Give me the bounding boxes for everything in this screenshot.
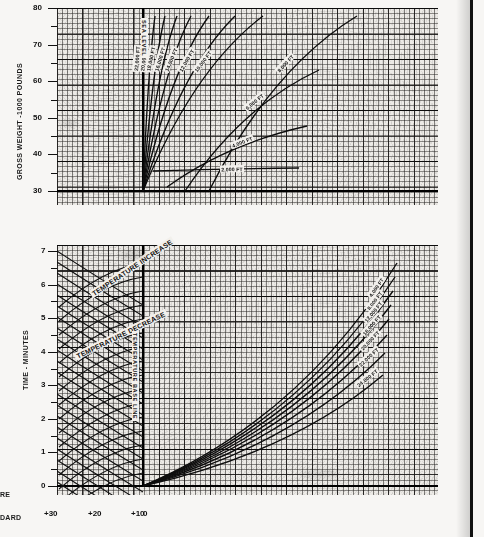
upper-y-tick-label: 40 (33, 149, 42, 158)
upper-y-tickmark (48, 8, 57, 9)
scan-blotch (300, 470, 340, 478)
upper-y-axis-label: GROSS WEIGHT -1000 POUNDS (16, 63, 23, 180)
upper-y-tick-label: 60 (33, 76, 42, 85)
lower-y-tickmark (48, 385, 57, 386)
upper-y-tickmark (48, 81, 57, 82)
lower-y-tick-label: 0 (41, 481, 45, 490)
lower-y-tick-label: 6 (41, 280, 45, 289)
altitude-curve-label: 2,000 FT (220, 165, 244, 172)
lower-y-minor-tickmark (51, 301, 57, 302)
sea-level-baseline-label: SEA LEVEL (141, 18, 148, 58)
lower-y-tickmark (48, 452, 57, 453)
lower-y-minor-tickmark (51, 268, 57, 269)
x-tick-label: 0 (143, 509, 147, 518)
margin-text-upper: RE (0, 491, 10, 498)
lower-y-minor-tickmark (51, 335, 57, 336)
scan-blotch (60, 120, 78, 127)
upper-y-tickmark (48, 154, 57, 155)
temperature-base-line-label: TEMPERATURE BASE LINE (132, 331, 139, 421)
lower-y-axis-label: TIME - MINUTES (22, 330, 29, 390)
upper-y-tick-label: 70 (33, 40, 42, 49)
upper-y-tickmark (48, 191, 57, 192)
lower-y-tick-label: 3 (41, 380, 45, 389)
upper-y-minor-tickmark (51, 26, 57, 27)
binding-shadow (456, 0, 470, 537)
lower-y-tick-label: 4 (41, 347, 45, 356)
upper-y-tick-label: 30 (33, 186, 42, 195)
upper-y-tick-label: 80 (33, 3, 42, 12)
lower-y-tick-label: 7 (41, 246, 45, 255)
nomograph-page: 2,000 FT4,000 FT6,000 FT8,000 FT10,000 F… (0, 0, 484, 537)
lower-y-minor-tickmark (51, 402, 57, 403)
upper-y-minor-tickmark (51, 173, 57, 174)
upper-y-minor-tickmark (51, 100, 57, 101)
book-binding-edge (470, 0, 473, 537)
lower-y-tickmark (48, 486, 57, 487)
lower-y-tick-label: 2 (41, 414, 45, 423)
margin-text-lower: DARD (0, 514, 21, 521)
lower-y-tick-label: 1 (41, 447, 45, 456)
lower-y-tick-label: 5 (41, 313, 45, 322)
upper-y-minor-tickmark (51, 136, 57, 137)
lower-y-minor-tickmark (51, 469, 57, 470)
upper-y-tickmark (48, 45, 57, 46)
lower-y-tickmark (48, 352, 57, 353)
lower-y-minor-tickmark (51, 369, 57, 370)
lower-y-tickmark (48, 251, 57, 252)
scan-blotch (120, 250, 146, 260)
upper-y-tick-label: 50 (33, 113, 42, 122)
upper-y-minor-tickmark (51, 63, 57, 64)
upper-y-tickmark (48, 118, 57, 119)
lower-y-tickmark (48, 419, 57, 420)
lower-y-tickmark (48, 318, 57, 319)
lower-y-tickmark (48, 285, 57, 286)
lower-y-minor-tickmark (51, 436, 57, 437)
x-tick-label: +30 (44, 509, 58, 518)
x-tick-label: +20 (88, 509, 102, 518)
